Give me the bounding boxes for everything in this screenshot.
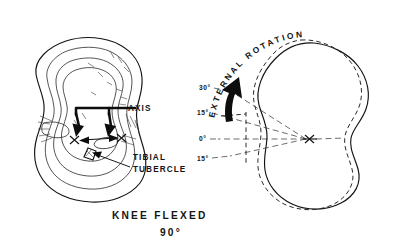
diagram-canvas: AXIS TIBIAL TUBERCLE KNEE FLEXED 90° [0,0,399,248]
angle-tick-15-down: 15° [197,155,209,162]
angle-tick-15-up: 15° [197,109,209,116]
tibial-tubercle-label-line1: TIBIAL [133,153,166,162]
caption-line2: 90° [160,227,182,238]
tibial-tubercle-label-line2: TUBERCLE [133,165,186,174]
figure-root: AXIS TIBIAL TUBERCLE KNEE FLEXED 90° [0,0,399,248]
axis-label: AXIS [128,104,152,113]
angle-tick-0: 0° [199,135,207,142]
angle-tick-30: 30° [199,84,211,91]
caption-line1: KNEE FLEXED [112,210,208,221]
